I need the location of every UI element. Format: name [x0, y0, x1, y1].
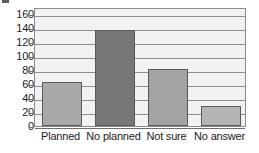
- gridline-160: [35, 16, 245, 17]
- bar-not-sure: [148, 69, 188, 126]
- gridline-100: [35, 58, 245, 59]
- gridline-80: [35, 72, 245, 73]
- y-tick-mark: [30, 127, 34, 128]
- x-axis: PlannedNo plannedNot sureNo answer: [34, 130, 246, 150]
- bar-planned: [42, 82, 82, 126]
- gridline-140: [35, 30, 245, 31]
- bar-no-planned: [95, 30, 135, 126]
- plot-area: [34, 8, 246, 127]
- gridline-120: [35, 44, 245, 45]
- bar-no-answer: [201, 106, 241, 126]
- gridline-0: [35, 128, 245, 129]
- x-tick-label-no-answer: No answer: [170, 130, 259, 143]
- plot-inner: [35, 9, 245, 126]
- chart-screenshot: 020406080100120140160 PlannedNo plannedN…: [0, 0, 258, 153]
